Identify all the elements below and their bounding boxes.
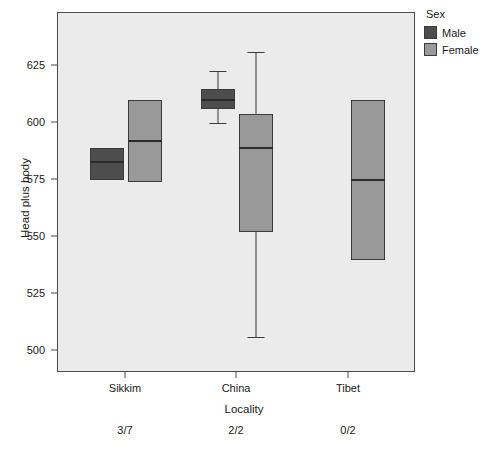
- median-line: [90, 161, 124, 163]
- whisker-upper: [256, 52, 257, 114]
- y-tick-label: 525: [27, 287, 45, 299]
- legend-swatch-female: [424, 43, 437, 56]
- x-tick-label-sikkim: Sikkim: [109, 382, 141, 394]
- y-axis-title: Head plus body: [19, 118, 31, 278]
- legend-item-male[interactable]: Male: [424, 26, 488, 39]
- legend-item-female[interactable]: Female: [424, 43, 488, 56]
- x-tick-mark: [125, 372, 126, 378]
- plot-panel: [57, 12, 415, 372]
- legend: Sex Male Female: [424, 8, 488, 60]
- sample-size-note-tibet: 0/2: [340, 424, 355, 436]
- sample-size-note-china: 2/2: [228, 424, 243, 436]
- whisker-cap-lower: [210, 123, 227, 124]
- legend-title: Sex: [426, 8, 488, 20]
- legend-swatch-male: [424, 26, 437, 39]
- x-tick-mark: [348, 372, 349, 378]
- whisker-lower: [256, 232, 257, 337]
- sample-size-note-sikkim: 3/7: [117, 424, 132, 436]
- x-tick-label-china: China: [222, 382, 251, 394]
- legend-label-male: Male: [442, 27, 466, 39]
- whisker-lower: [218, 109, 219, 123]
- x-tick-mark: [236, 372, 237, 378]
- whisker-cap-lower: [248, 337, 265, 338]
- median-line: [351, 179, 385, 181]
- whisker-cap-upper: [210, 71, 227, 72]
- box-china-female[interactable]: [239, 114, 273, 233]
- x-axis-title: Locality: [0, 403, 488, 415]
- whisker-cap-upper: [248, 52, 265, 53]
- whisker-upper: [218, 71, 219, 89]
- y-tick-label: 625: [27, 59, 45, 71]
- median-line: [201, 99, 235, 101]
- median-line: [239, 147, 273, 149]
- x-tick-label-tibet: Tibet: [336, 382, 360, 394]
- y-tick-label: 500: [27, 344, 45, 356]
- legend-label-female: Female: [442, 44, 479, 56]
- boxplot-figure: 500525550575600625 Head plus body Locali…: [0, 0, 488, 452]
- box-sikkim-male[interactable]: [90, 148, 124, 180]
- median-line: [128, 140, 162, 142]
